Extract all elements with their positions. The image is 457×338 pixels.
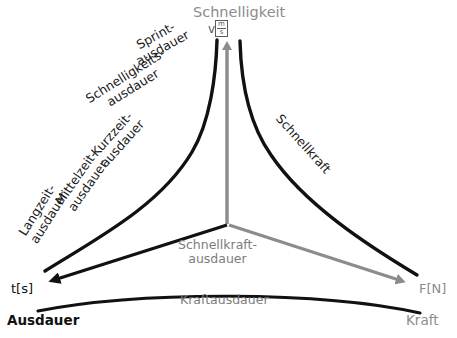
axis-unit-velocity-symbol: v — [208, 22, 215, 36]
axis-unit-velocity: vms — [208, 21, 228, 38]
curve-label-line2: ausdauer — [178, 252, 257, 266]
diagram-canvas: Schnelligkeit vms t[s] Ausdauer F[N] Kra… — [0, 0, 457, 338]
diagram-graphic — [0, 0, 457, 338]
axis-label-schnelligkeit: Schnelligkeit — [193, 4, 285, 20]
curve-schnellkraft-continuum — [240, 41, 417, 275]
curve-label-kraftausdauer: Kraftausdauer — [180, 293, 269, 307]
fraction-denominator: s — [217, 29, 226, 36]
axis-unit-force: F[N] — [419, 282, 446, 297]
curve-label-line1: Schnellkraft- — [178, 238, 257, 252]
axis-label-kraft: Kraft — [406, 313, 438, 328]
axis-label-ausdauer: Ausdauer — [7, 313, 79, 328]
curve-label-line1: Kraftausdauer — [180, 293, 269, 307]
curve-label-schnellkraftausdauer: Schnellkraft- ausdauer — [178, 238, 257, 266]
axis-unit-time: t[s] — [11, 282, 33, 297]
axis-unit-velocity-fraction: ms — [215, 20, 228, 37]
